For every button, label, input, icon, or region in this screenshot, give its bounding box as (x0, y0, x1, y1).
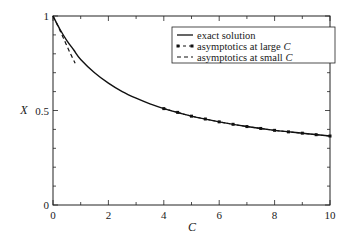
data-point (259, 127, 262, 130)
data-point (162, 107, 165, 110)
data-point (245, 125, 248, 128)
chart: 024681000.51 C X exact solution asymptot… (0, 0, 352, 243)
x-tick-label: 8 (272, 209, 278, 221)
data-point (315, 133, 318, 136)
data-point (232, 123, 235, 126)
data-point (218, 120, 221, 123)
legend: exact solution asymptotics at large C as… (172, 27, 335, 63)
legend-label-small-c: asymptotics at small C (197, 52, 293, 63)
x-axis-label: C (188, 220, 197, 234)
y-tick-label: 1 (44, 10, 50, 22)
data-point (301, 132, 304, 135)
data-point (176, 111, 179, 114)
x-tick-label: 10 (325, 209, 337, 221)
data-point (190, 115, 193, 118)
y-tick-label: 0 (44, 199, 50, 211)
x-tick-label: 2 (106, 209, 112, 221)
y-tick-label: 0.5 (35, 105, 49, 117)
x-tick-label: 0 (50, 209, 56, 221)
legend-label-large-c: asymptotics at large C (197, 41, 291, 52)
y-axis-label: X (19, 103, 28, 117)
series-asymptotics-at-small-c-line (53, 16, 75, 63)
legend-label-exact: exact solution (197, 30, 256, 41)
x-tick-label: 4 (161, 209, 167, 221)
data-point (204, 118, 207, 121)
data-point (273, 129, 276, 132)
series-asymptotics-at-large-c-line (164, 109, 330, 136)
data-point (329, 135, 332, 138)
data-point (287, 130, 290, 133)
x-tick-label: 6 (216, 209, 222, 221)
